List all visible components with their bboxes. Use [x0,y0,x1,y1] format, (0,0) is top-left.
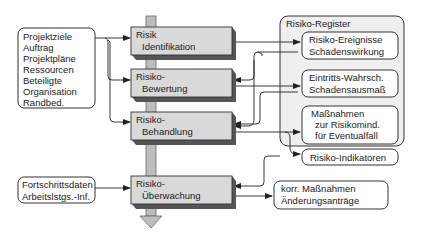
output-change-requests: Änderungsanträge [281,195,359,206]
svg-text:Risik: Risik [136,29,157,40]
process-monitoring: Risiko- Überwachung [131,176,236,209]
register-item-measures: Maßnahmen zur Risikomind. für Eventualfa… [302,106,398,144]
process-evaluation: Risiko- Bewertung [131,69,236,102]
svg-text:Behandlung: Behandlung [142,126,193,137]
svg-text:Eintritts-Wahrsch.: Eintritts-Wahrsch. [309,72,384,83]
risk-register-title: Risiko-Register [286,18,350,29]
svg-text:Identifikation: Identifikation [142,41,195,52]
input-project-goals: Projektziele [23,31,72,42]
progress-inputs-box: Fortschrittsdaten Arbeitslstgs.-Inf. [18,177,95,203]
input-resources: Ressourcen [23,64,74,75]
svg-text:Risiko-: Risiko- [136,178,165,189]
input-order: Auftrag [23,42,54,53]
project-inputs-box: Projektziele Auftrag Projektpläne Ressou… [18,28,95,108]
svg-text:Überwachung: Überwachung [142,190,201,201]
svg-text:für Eventualfall: für Eventualfall [315,130,378,141]
process-identification: Risik Identifikation [131,27,236,60]
svg-text:zur Risikomind.: zur Risikomind. [315,119,380,130]
register-item-probability: Eintritts-Wahrsch. Schadensausmaß [302,70,398,97]
svg-text:Maßnahmen: Maßnahmen [311,108,364,119]
register-item-events: Risiko-Ereignisse Schadenswirkung [302,32,398,59]
input-progress-data: Fortschrittsdaten [22,179,93,190]
svg-text:Schadenswirkung: Schadenswirkung [309,46,384,57]
svg-text:Risiko-Ereignisse: Risiko-Ereignisse [309,34,382,45]
risk-management-diagram: Risiko-Register Projektziele Auftrag Pro… [0,0,422,235]
svg-text:Risiko-: Risiko- [136,71,165,82]
down-arrow-icon [140,216,162,228]
input-project-plans: Projektpläne [23,53,76,64]
svg-text:Risiko-Indikatoren: Risiko-Indikatoren [310,152,386,163]
svg-text:Risiko-: Risiko- [136,114,165,125]
process-treatment: Risiko- Behandlung [131,112,236,145]
output-box: korr. Maßnahmen Änderungsanträge [274,181,388,209]
register-item-indicators: Risiko-Indikatoren [302,149,398,165]
output-corrective-measures: korr. Maßnahmen [281,183,355,194]
svg-text:Bewertung: Bewertung [142,83,187,94]
input-constraints: Randbed. [23,97,64,108]
input-organisation: Organisation [23,86,77,97]
svg-text:Schadensausmaß: Schadensausmaß [309,84,386,95]
input-stakeholders: Beteiligte [23,75,62,86]
input-work-info: Arbeitslstgs.-Inf. [22,191,90,202]
